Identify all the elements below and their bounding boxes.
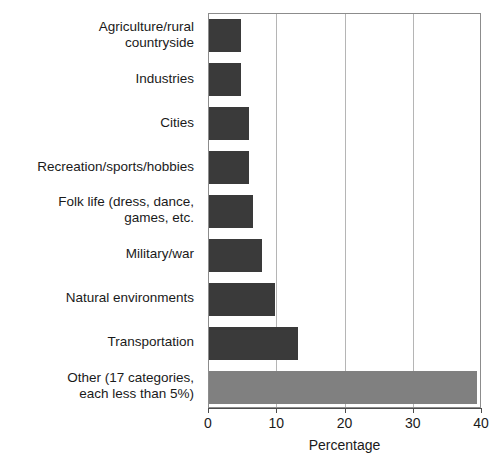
x-tick-40 bbox=[481, 408, 482, 413]
x-tick-label-40: 40 bbox=[461, 415, 500, 431]
x-tick-label-30: 30 bbox=[393, 415, 433, 431]
bar bbox=[209, 371, 477, 404]
plot-area bbox=[208, 13, 481, 408]
bar bbox=[209, 239, 262, 272]
bar bbox=[209, 63, 241, 96]
bar bbox=[209, 283, 275, 316]
bar bbox=[209, 107, 249, 140]
category-label: Cities bbox=[0, 101, 194, 145]
x-tick-label-10: 10 bbox=[256, 415, 296, 431]
x-tick-label-20: 20 bbox=[325, 415, 365, 431]
category-label-column: Agriculture/rural countrysideIndustriesC… bbox=[0, 10, 200, 408]
category-label: Agriculture/rural countryside bbox=[0, 13, 194, 57]
bar bbox=[209, 151, 249, 184]
bar bbox=[209, 327, 298, 360]
category-label: Folk life (dress, dance, games, etc. bbox=[0, 189, 194, 233]
gridline-30 bbox=[413, 14, 414, 407]
category-label: Military/war bbox=[0, 232, 194, 276]
x-tick-20 bbox=[345, 408, 346, 413]
category-label: Other (17 categories, each less than 5%) bbox=[0, 364, 194, 408]
category-label: Natural environments bbox=[0, 276, 194, 320]
bar bbox=[209, 195, 253, 228]
x-tick-30 bbox=[413, 408, 414, 413]
category-label: Recreation/sports/hobbies bbox=[0, 145, 194, 189]
gridline-20 bbox=[345, 14, 346, 407]
x-axis-title: Percentage bbox=[208, 437, 481, 453]
category-label: Transportation bbox=[0, 320, 194, 364]
x-tick-0 bbox=[208, 408, 209, 413]
category-label: Industries bbox=[0, 57, 194, 101]
bar-chart: Agriculture/rural countrysideIndustriesC… bbox=[0, 0, 500, 468]
x-tick-label-0: 0 bbox=[188, 415, 228, 431]
x-tick-10 bbox=[276, 408, 277, 413]
bar bbox=[209, 19, 241, 52]
